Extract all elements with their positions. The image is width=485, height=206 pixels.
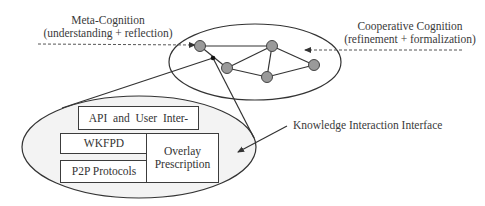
junction-dot [211,56,216,61]
meta-cognition-subtitle: (understanding + reflection) [38,27,178,40]
prescription-line: Prescription [155,158,211,171]
network-node [309,60,320,71]
cooperative-cognition-label: Cooperative Cognition (refinement + form… [340,20,480,46]
meta-cognition-title: Meta-Cognition [38,14,178,27]
network-node [222,63,233,74]
meta-cognition-dashed-arrow [38,44,195,45]
wkfpd-box: WKFPD [60,133,148,154]
network-node [195,41,206,52]
cooperative-cognition-subtitle: (refinement + formalization) [340,33,480,46]
network-node [267,41,278,52]
overlay-line: Overlay [164,145,201,158]
network-edges [200,46,314,77]
p2p-protocols-box: P2P Protocols [60,160,148,183]
meta-cognition-label: Meta-Cognition (understanding + reflecti… [38,14,178,40]
overlay-prescription-box: Overlay Prescription [146,133,219,183]
knowledge-interface-label: Knowledge Interaction Interface [293,119,442,132]
network-nodes [195,41,320,83]
network-node [262,72,273,83]
api-user-interface-box: API and User Inter- [78,106,199,130]
cooperative-cognition-title: Cooperative Cognition [340,20,480,33]
